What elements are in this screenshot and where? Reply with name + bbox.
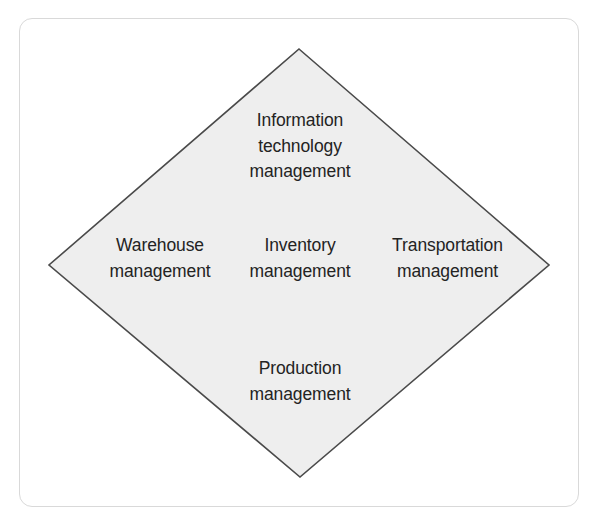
node-label-transportation-management: Transportation management [365, 233, 530, 284]
node-label-inventory-management: Inventory management [233, 233, 367, 284]
node-label-information-technology-management: Information technology management [220, 108, 380, 185]
diagram-label-layer: Information technology management Wareho… [0, 0, 599, 524]
node-label-production-management: Production management [222, 356, 378, 407]
node-label-warehouse-management: Warehouse management [85, 233, 235, 284]
diagram-canvas: Information technology management Wareho… [0, 0, 599, 524]
